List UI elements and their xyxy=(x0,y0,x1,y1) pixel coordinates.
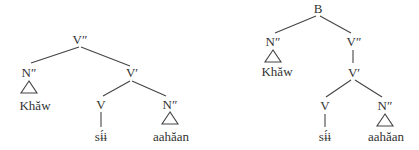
node-obj: N″ xyxy=(378,98,393,113)
word-verb: sɨ́ɨ xyxy=(319,129,332,144)
edge-root-subj xyxy=(31,47,79,63)
word-subj: Khăw xyxy=(19,98,51,113)
triangle-subj xyxy=(21,81,37,93)
node-root: V″ xyxy=(73,32,88,47)
node-verb: V xyxy=(96,97,106,112)
word-subj: Khăw xyxy=(261,64,293,79)
edge-root-subj xyxy=(275,16,316,33)
edge-vbar-obj xyxy=(132,81,166,96)
node-vbar: V′ xyxy=(126,65,138,80)
node-vp: V″ xyxy=(347,34,362,49)
node-verb: V xyxy=(320,98,330,113)
node-root: B xyxy=(314,1,323,16)
word-verb: sɨ́ɨ xyxy=(95,129,108,144)
word-obj: aahăan xyxy=(368,129,405,144)
syntax-tree-figure: V″ N″ V′ Khăw V N″ sɨ́ɨ aahăan B N″ V″ K… xyxy=(0,0,419,150)
tree-right: B N″ V″ Khăw V′ V N″ sɨ́ɨ aahăan xyxy=(261,1,404,144)
triangle-obj xyxy=(377,114,393,126)
triangle-obj xyxy=(162,112,178,124)
triangle-subj xyxy=(265,50,281,62)
node-vbar: V′ xyxy=(348,65,360,80)
edge-vbar-obj xyxy=(355,80,382,97)
edge-vbar-verb xyxy=(326,80,351,97)
word-obj: aahăan xyxy=(153,129,190,144)
node-obj: N″ xyxy=(163,97,178,112)
node-subj: N″ xyxy=(266,34,281,49)
edge-vbar-verb xyxy=(103,81,130,96)
edge-root-vp xyxy=(320,16,351,33)
tree-left: V″ N″ V′ Khăw V N″ sɨ́ɨ aahăan xyxy=(19,32,189,144)
node-subj: N″ xyxy=(22,65,37,80)
edge-root-vbar xyxy=(81,47,130,66)
